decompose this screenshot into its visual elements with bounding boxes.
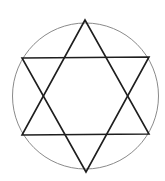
hexagram-diagram — [0, 0, 165, 181]
background — [0, 0, 165, 181]
